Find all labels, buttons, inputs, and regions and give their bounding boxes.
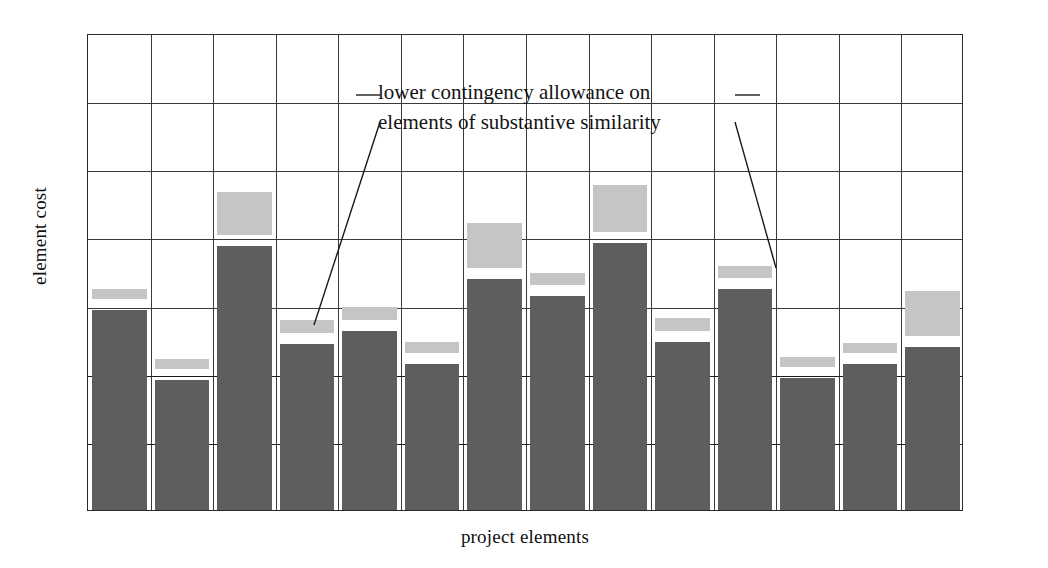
bar-base-cost (280, 344, 335, 510)
x-axis-title: project elements (87, 526, 963, 548)
bar-contingency-allowance (530, 273, 585, 285)
bar-base-cost (467, 279, 522, 510)
chart-figure: element cost project elements lower cont… (0, 0, 1048, 568)
bar-base-cost (405, 364, 460, 510)
y-axis-title: element cost (29, 156, 51, 316)
bar-base-cost (843, 364, 898, 510)
bar-contingency-allowance (655, 318, 710, 331)
annotation-text: lower contingency allowance on elements … (378, 78, 738, 138)
bar-group[interactable] (276, 35, 339, 510)
bar-contingency-allowance (92, 289, 147, 299)
bar-group[interactable] (776, 35, 839, 510)
bar-contingency-allowance (155, 359, 210, 369)
bar-group[interactable] (901, 35, 964, 510)
bar-group[interactable] (839, 35, 902, 510)
annotation-line-2: elements of substantive similarity (378, 108, 738, 138)
bar-contingency-allowance (217, 192, 272, 235)
bar-base-cost (593, 243, 648, 510)
bar-contingency-allowance (405, 342, 460, 353)
bar-base-cost (718, 289, 773, 510)
bar-base-cost (655, 342, 710, 510)
bar-contingency-allowance (280, 320, 335, 333)
bar-base-cost (780, 378, 835, 510)
bar-group[interactable] (88, 35, 151, 510)
bar-contingency-allowance (905, 291, 960, 336)
bar-contingency-allowance (843, 343, 898, 353)
annotation-line-1: lower contingency allowance on (378, 78, 738, 108)
bar-contingency-allowance (593, 185, 648, 232)
bar-contingency-allowance (342, 307, 397, 320)
bar-group[interactable] (151, 35, 214, 510)
bar-contingency-allowance (780, 357, 835, 367)
bar-base-cost (92, 310, 147, 510)
bar-base-cost (905, 347, 960, 510)
bar-base-cost (155, 380, 210, 510)
bar-contingency-allowance (718, 266, 773, 278)
bar-base-cost (217, 246, 272, 510)
bar-base-cost (530, 296, 585, 510)
bar-contingency-allowance (467, 223, 522, 268)
bar-base-cost (342, 331, 397, 510)
bar-group[interactable] (213, 35, 276, 510)
